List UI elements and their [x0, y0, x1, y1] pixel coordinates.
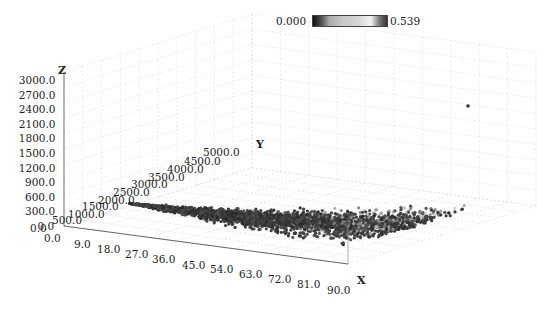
- x-tick-label: 63.0: [239, 269, 262, 280]
- z-tick-label: 600.0: [25, 192, 55, 203]
- z-tick-label: 3000.0: [19, 75, 56, 86]
- x-tick-label: 36.0: [152, 254, 175, 265]
- x-axis-title: X: [357, 274, 366, 287]
- z-tick-label: 300.0: [25, 206, 55, 217]
- x-tick-label: 81.0: [297, 279, 320, 290]
- x-tick-label: 90.0: [327, 285, 350, 296]
- colorbar-max-label: 0.539: [390, 15, 420, 27]
- x-tick-label: 18.0: [97, 244, 120, 255]
- x-tick-label: 45.0: [182, 260, 205, 271]
- colorbar-min-label: 0.000: [276, 15, 306, 27]
- y-axis-title: Y: [256, 138, 264, 151]
- z-tick-label: 1800.0: [19, 133, 56, 144]
- z-tick-label: 2100.0: [19, 119, 56, 130]
- x-tick-label: 54.0: [210, 264, 233, 275]
- y-tick-label: 0.0: [30, 223, 47, 234]
- x-tick-label: 0.0: [44, 233, 61, 244]
- colorbar-gradient: [312, 15, 388, 27]
- x-tick-label: 72.0: [268, 274, 291, 285]
- z-tick-label: 1500.0: [19, 148, 56, 159]
- z-tick-label: 2400.0: [19, 104, 56, 115]
- colorbar-legend: 0.000 0.539: [276, 14, 420, 28]
- z-tick-label: 900.0: [25, 177, 55, 188]
- x-tick-label: 27.0: [125, 249, 148, 260]
- z-tick-label: 1200.0: [19, 163, 56, 174]
- z-axis-title: Z: [58, 64, 66, 77]
- z-tick-label: 2700.0: [19, 90, 56, 101]
- y-tick-label: 5000.0: [203, 147, 240, 158]
- x-tick-label: 9.0: [74, 239, 91, 250]
- scatter-3d-plot[interactable]: [0, 0, 555, 310]
